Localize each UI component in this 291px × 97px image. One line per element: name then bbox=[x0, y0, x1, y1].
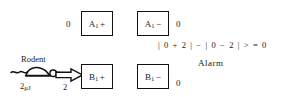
unit-label-subscript: 1 bbox=[151, 22, 154, 29]
unit-box-b1-minus[interactable]: B1− bbox=[137, 64, 169, 89]
stimulus-arrow-icon bbox=[56, 68, 84, 82]
unit-label-a1-minus: A1− bbox=[138, 19, 168, 28]
unit-label-subscript: 1 bbox=[95, 22, 98, 29]
unit-label-sign: + bbox=[100, 71, 105, 81]
unit-box-a1-plus[interactable]: A1+ bbox=[81, 11, 113, 36]
input-value-b1-minus: 0 bbox=[176, 79, 181, 88]
stimulus-source-label: Rodent bbox=[21, 55, 46, 64]
input-value-a1-minus: 0 bbox=[176, 20, 181, 29]
unit-label-subscript: 1 bbox=[95, 75, 98, 82]
unit-label-sign: − bbox=[156, 18, 161, 28]
energy-unit: J bbox=[28, 84, 31, 92]
alarm-output-label: Alarm bbox=[198, 59, 224, 68]
unit-box-a1-minus[interactable]: A1− bbox=[137, 11, 169, 36]
unit-label-b1-plus: B1+ bbox=[82, 72, 112, 81]
stimulus-arrow-value: 2 bbox=[63, 83, 67, 92]
unit-box-b1-plus[interactable]: B1+ bbox=[81, 64, 113, 89]
unit-label-b1-minus: B1− bbox=[138, 72, 168, 81]
comparison-equation: | 0 + 2 | − | 0 − 2 | > = 0 bbox=[158, 41, 267, 50]
unit-label-subscript: 1 bbox=[151, 75, 154, 82]
unit-label-sign: + bbox=[100, 18, 105, 28]
diagram-canvas: 0 A1+ A1− 0 | 0 + 2 | − | 0 − 2 | > = 0 … bbox=[0, 0, 291, 97]
unit-label-sign: − bbox=[156, 71, 161, 81]
stimulus-energy-label: 2μJ bbox=[20, 82, 31, 91]
unit-label-a1-plus: A1+ bbox=[82, 19, 112, 28]
rodent-icon bbox=[10, 64, 62, 80]
input-value-a1-plus: 0 bbox=[66, 20, 71, 29]
